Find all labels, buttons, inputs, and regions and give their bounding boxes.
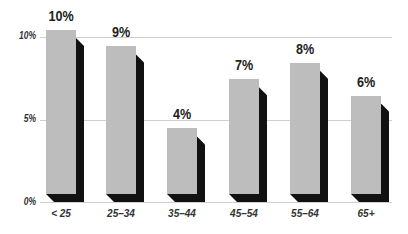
x-category-label: < 25 [36, 208, 86, 219]
x-category-label: 65+ [341, 208, 391, 219]
x-category-label: 45–54 [219, 208, 269, 219]
y-tick-0: 0% [5, 196, 36, 207]
bar-shadow-floor [106, 194, 144, 202]
bar [106, 46, 144, 194]
y-tick-10: 10% [5, 30, 36, 41]
bar-shadow-floor [351, 194, 389, 202]
bar-front [351, 96, 381, 194]
bar-value-label: 6% [344, 74, 389, 90]
bar-value-label: 10% [39, 8, 84, 24]
bar [290, 63, 328, 194]
bar-front [106, 46, 136, 194]
bar-shadow-side [197, 136, 205, 202]
x-category-label: 35–44 [157, 208, 207, 219]
bar-front [229, 79, 259, 194]
gridline-5 [40, 120, 392, 121]
bar-shadow-floor [229, 194, 267, 202]
bar-shadow-side [381, 104, 389, 202]
bar [229, 79, 267, 194]
bar-shadow-side [76, 38, 84, 202]
y-tick-5: 5% [5, 113, 36, 124]
bar-shadow-side [320, 71, 328, 202]
bar-shadow-floor [290, 194, 328, 202]
bar-shadow-floor [46, 194, 84, 202]
bar-chart: 10% 5% 0% 10%< 259%25–344%35–447%45–548%… [0, 0, 408, 234]
bar-front [167, 128, 197, 194]
bar-value-label: 4% [160, 106, 205, 122]
x-category-label: 25–34 [96, 208, 146, 219]
bar [351, 96, 389, 194]
gridline-0 [40, 202, 392, 203]
bar-shadow-side [259, 87, 267, 202]
bar-value-label: 9% [99, 24, 144, 40]
bar-front [46, 30, 76, 194]
bar-front [290, 63, 320, 194]
bar-shadow-floor [167, 194, 205, 202]
bar-shadow-side [136, 54, 144, 202]
x-category-label: 55–64 [280, 208, 330, 219]
bar [167, 128, 205, 194]
bar [46, 30, 84, 194]
bar-value-label: 7% [222, 57, 267, 73]
gridline-10 [40, 37, 392, 38]
bar-value-label: 8% [283, 41, 328, 57]
